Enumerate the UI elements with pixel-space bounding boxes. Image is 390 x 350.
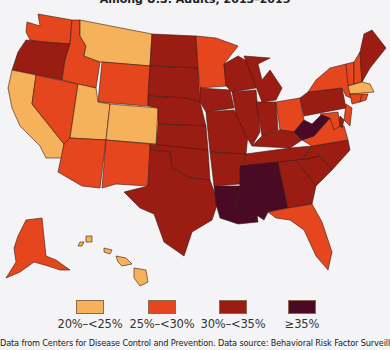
legend-label: ≥35% [262, 317, 342, 331]
state-ME[interactable] [360, 30, 386, 82]
choropleth-map [0, 8, 390, 293]
map-title: Among U.S. Adults, 2013–2015 [0, 0, 390, 6]
state-AK[interactable] [6, 218, 70, 278]
state-CT[interactable] [350, 94, 362, 104]
state-WA[interactable] [26, 14, 72, 44]
legend-item-35-plus: ≥35% [262, 298, 342, 331]
state-FL[interactable] [268, 204, 332, 270]
legend-swatch [219, 300, 247, 314]
map-legend: 20%–<25% 25%–<30% 30%–<35% ≥35% [0, 298, 390, 330]
state-NM[interactable] [102, 140, 150, 188]
legend-label: 25%–<30% [122, 317, 202, 331]
state-WY[interactable] [98, 62, 150, 106]
legend-label: 30%–<35% [193, 317, 273, 331]
state-AZ[interactable] [58, 138, 106, 188]
legend-swatch [288, 300, 316, 314]
state-IA[interactable] [200, 88, 234, 112]
state-CO[interactable] [106, 104, 158, 144]
state-PA[interactable] [300, 88, 346, 116]
legend-item-30-35: 30%–<35% [193, 298, 273, 331]
state-ND[interactable] [150, 34, 198, 68]
legend-swatch [148, 300, 176, 314]
legend-item-20-25: 20%–<25% [50, 298, 130, 331]
state-HI[interactable] [78, 236, 148, 286]
legend-label: 20%–<25% [50, 317, 130, 331]
legend-swatch [76, 300, 104, 314]
source-note: Data from Centers for Disease Control an… [0, 338, 390, 348]
legend-item-25-30: 25%–<30% [122, 298, 202, 331]
